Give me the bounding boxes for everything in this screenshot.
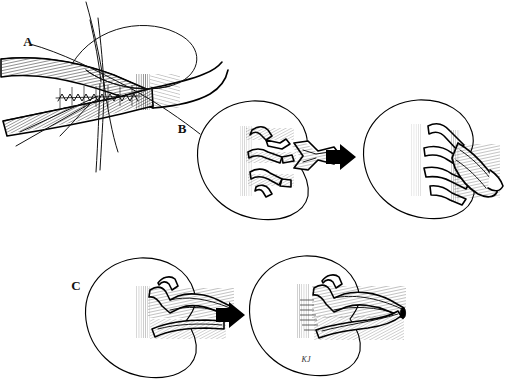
panel-label-c: C [71,278,80,293]
donor-kidney-multiple-arteries [198,101,309,220]
distal-shading [150,74,180,108]
hilum-hatch-c-right [296,284,310,338]
hilum-hatch-c-left [136,286,150,338]
illustration-canvas: A [0,0,505,384]
hilum-hatch-left [240,126,252,196]
panel-b-group: B [178,100,503,220]
panel-label-b: B [178,121,187,136]
panel-a-group: A [0,2,228,172]
distal-vessel-segment [150,62,228,108]
kidney-with-completed-anastomosis: KJ [250,256,406,376]
figure-root: A [0,0,505,384]
hilum-hatch-right [410,124,422,196]
kidney-main-artery-and-free-polar-artery [86,258,234,378]
reconstructed-kidney-conduit [364,100,503,219]
panel-c-group: KJ C [71,256,406,378]
anastomosis-hatch-right [450,130,460,202]
free-polar-artery-left [150,319,226,339]
artist-signature: KJ [301,355,311,364]
panel-label-a: A [23,34,33,49]
